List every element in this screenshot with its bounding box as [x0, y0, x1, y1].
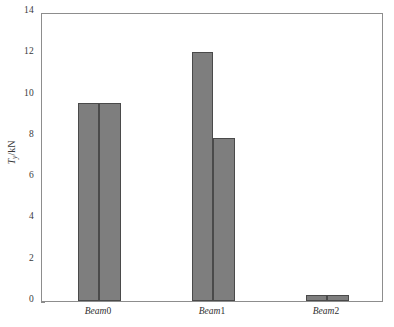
x-axis-tick-label-name: Beam — [85, 306, 107, 316]
bar — [78, 103, 100, 301]
y-axis-tick-label: 0 — [29, 294, 34, 304]
bar — [192, 52, 214, 301]
y-axis-tick-label: 12 — [24, 46, 34, 56]
y-axis-title-subscript: y — [10, 156, 19, 159]
y-axis-title-symbol: T — [6, 159, 17, 165]
bar-chart: 02468101214 Ty/kN Beam0Beam1Beam2 — [0, 0, 394, 327]
y-axis-tick-label: 4 — [29, 211, 34, 221]
plot-area — [41, 13, 383, 302]
bar — [306, 295, 328, 301]
x-axis-tick-label-index: 1 — [220, 306, 225, 316]
y-axis-tick-label: 2 — [29, 253, 34, 263]
x-axis-tick-label-name: Beam — [313, 306, 335, 316]
x-axis-tick-label: Beam0 — [43, 306, 153, 316]
x-axis-tick-label: Beam2 — [271, 306, 381, 316]
y-axis-tick-label: 8 — [29, 129, 34, 139]
bar — [327, 295, 349, 301]
x-axis-tick-label: Beam1 — [157, 306, 267, 316]
y-axis-tick-label: 10 — [24, 88, 34, 98]
bar — [99, 103, 121, 301]
bar — [213, 138, 235, 301]
y-axis-tick-label: 14 — [24, 5, 34, 15]
y-axis-tick-mark — [41, 302, 45, 303]
x-axis-tick-label-index: 2 — [334, 306, 339, 316]
x-axis-tick-label-index: 0 — [106, 306, 111, 316]
y-axis-title: Ty/kN — [6, 123, 19, 183]
y-axis-tick-label: 6 — [29, 170, 34, 180]
y-axis-title-unit: /kN — [6, 141, 17, 156]
x-axis-tick-label-name: Beam — [199, 306, 221, 316]
